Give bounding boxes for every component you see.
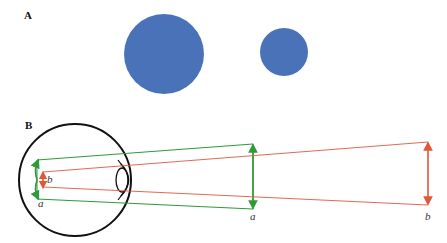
diagram-canvas: b a a b bbox=[0, 0, 447, 243]
retina-label-a: a bbox=[38, 197, 44, 209]
iris-bottom bbox=[118, 192, 124, 200]
panel-a-discs bbox=[124, 14, 308, 94]
small-disc bbox=[260, 28, 308, 76]
object-label-a: a bbox=[250, 210, 256, 222]
eyeball-outline bbox=[19, 124, 131, 236]
large-disc bbox=[124, 14, 204, 94]
near-object-rays bbox=[37, 144, 253, 209]
eye bbox=[19, 124, 131, 236]
lens bbox=[116, 168, 128, 192]
iris-top bbox=[118, 160, 124, 168]
object-label-b: b bbox=[425, 210, 431, 222]
retina-label-b: b bbox=[47, 173, 53, 185]
far-object-rays bbox=[43, 142, 428, 205]
